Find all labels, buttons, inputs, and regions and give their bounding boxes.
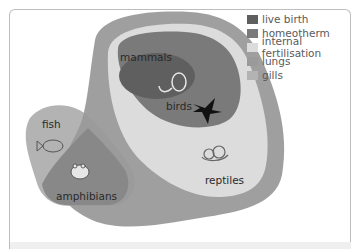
legend-item-live-birth: live birth (247, 12, 363, 26)
label-fish: fish (42, 118, 61, 130)
swatch-live-birth (247, 15, 258, 24)
label-amphibians: amphibians (56, 190, 117, 202)
label-birds: birds (166, 100, 192, 112)
legend-label: live birth (262, 13, 309, 25)
label-mammals: mammals (120, 51, 172, 63)
legend: live birth homeotherm internal fertilisa… (247, 12, 363, 82)
legend-label: lungs (262, 55, 290, 67)
swatch-internal-fertilisation (247, 43, 258, 52)
swatch-gills (247, 71, 258, 80)
legend-item-gills: gills (247, 68, 363, 82)
swatch-lungs (247, 57, 258, 66)
swatch-homeotherm (247, 29, 258, 38)
legend-label: gills (262, 69, 283, 81)
label-reptiles: reptiles (205, 174, 244, 186)
legend-item-internal-fertilisation: internal fertilisation (247, 40, 363, 54)
